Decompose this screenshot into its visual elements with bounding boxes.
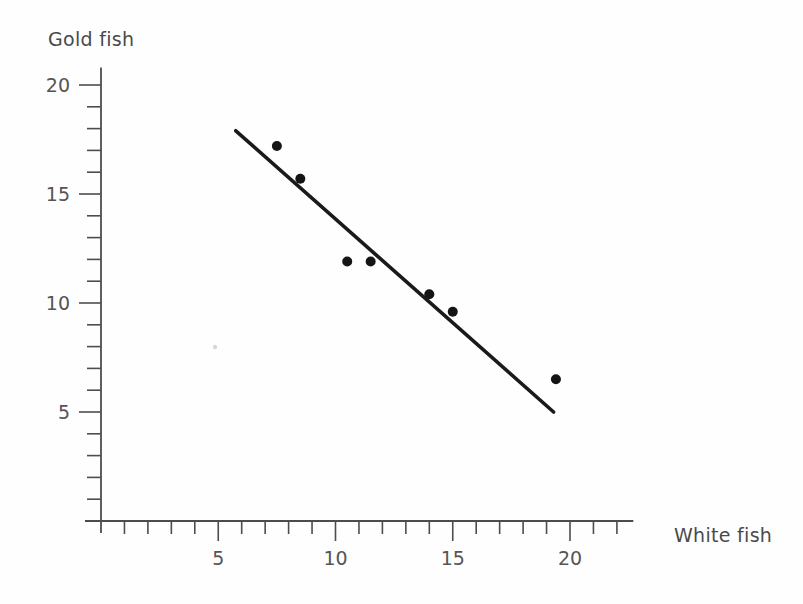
data-point <box>295 174 305 184</box>
regression-line <box>236 131 554 412</box>
data-point <box>366 257 376 267</box>
x-tick-label: 20 <box>558 547 582 569</box>
scan-speck <box>213 345 217 349</box>
y-tick-label: 15 <box>46 183 70 205</box>
y-tick-label: 5 <box>58 401 70 423</box>
y-axis: 5101520 <box>46 68 101 533</box>
plot-canvas: 5101520 5101520 <box>0 0 803 604</box>
y-tick-label: 20 <box>46 74 70 96</box>
data-point <box>342 257 352 267</box>
data-point <box>272 141 282 151</box>
data-points <box>272 141 561 384</box>
data-point <box>448 307 458 317</box>
trend-line <box>236 131 554 412</box>
y-tick-label: 10 <box>46 292 70 314</box>
x-tick-label: 10 <box>323 547 347 569</box>
x-tick-label: 5 <box>212 547 224 569</box>
x-tick-label: 15 <box>441 547 465 569</box>
x-axis: 5101520 <box>85 521 633 569</box>
data-point <box>551 374 561 384</box>
data-point <box>424 289 434 299</box>
scatter-plot-figure: Gold fish White fish 5101520 5101520 <box>0 0 803 604</box>
